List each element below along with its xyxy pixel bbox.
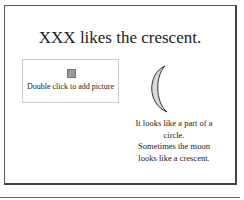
- body-line: Sometimes the moon: [129, 141, 219, 153]
- crescent-moon-shape[interactable]: [145, 64, 175, 114]
- next-slide-edge: [0, 197, 240, 200]
- picture-placeholder[interactable]: Double click to add picture: [22, 59, 119, 103]
- body-line: looks like a crescent.: [129, 153, 219, 165]
- slide-body-text[interactable]: It looks like a part of a circle. Someti…: [129, 118, 219, 164]
- slide-title[interactable]: XXX likes the crescent.: [5, 28, 235, 48]
- body-line: It looks like a part of a circle.: [129, 118, 219, 141]
- slide[interactable]: XXX likes the crescent. Double click to …: [4, 5, 237, 185]
- picture-placeholder-label: Double click to add picture: [23, 82, 118, 91]
- picture-icon: [67, 69, 76, 78]
